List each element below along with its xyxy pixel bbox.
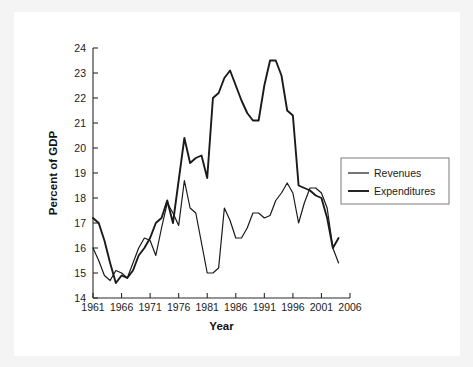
x-tick-label: 1981: [196, 301, 220, 313]
x-tick-label: 1971: [138, 301, 162, 313]
x-tick-label: 1966: [110, 301, 134, 313]
x-axis-tick-labels: 1961196619711976198119861991199620012006: [81, 301, 362, 313]
series-line-expenditures: [93, 61, 339, 284]
x-tick-label: 1986: [224, 301, 248, 313]
x-tick-label: 1961: [81, 301, 105, 313]
y-axis-tick-marks: [93, 48, 98, 298]
legend-border: [341, 158, 449, 204]
y-axis-title: Percent of GDP: [47, 130, 59, 215]
x-tick-label: 1996: [281, 301, 305, 313]
y-tick-label: 21: [74, 117, 86, 129]
y-tick-label: 18: [74, 192, 86, 204]
x-tick-label: 2006: [338, 301, 362, 313]
data-series-group: [93, 61, 339, 284]
y-axis-tick-labels: 1415161718192021222324: [74, 42, 86, 304]
line-chart: 1415161718192021222324 19611966197119761…: [0, 0, 473, 367]
series-line-revenues: [93, 181, 339, 281]
legend-label-expenditures: Expenditures: [374, 185, 435, 197]
x-tick-label: 1976: [167, 301, 191, 313]
y-tick-label: 23: [74, 67, 86, 79]
y-tick-label: 20: [74, 142, 86, 154]
x-axis-tick-marks: [93, 293, 350, 298]
y-tick-label: 15: [74, 267, 86, 279]
y-tick-label: 16: [74, 242, 86, 254]
legend-label-revenues: Revenues: [374, 167, 421, 179]
x-axis-title: Year: [209, 320, 234, 332]
y-tick-label: 17: [74, 217, 86, 229]
y-tick-label: 19: [74, 167, 86, 179]
chart-legend: RevenuesExpenditures: [341, 158, 449, 204]
y-tick-label: 24: [74, 42, 86, 54]
x-tick-label: 2001: [310, 301, 334, 313]
y-tick-label: 22: [74, 92, 86, 104]
x-tick-label: 1991: [253, 301, 277, 313]
